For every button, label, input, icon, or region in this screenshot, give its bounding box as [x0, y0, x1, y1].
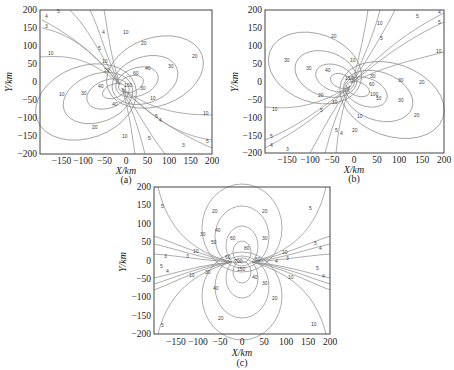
svg-text:200: 200 [323, 337, 338, 347]
svg-text:−150: −150 [131, 311, 151, 321]
contour-labels-c: 55 2020 3040 6080 3050 1010 6060 200150 … [160, 203, 325, 328]
svg-text:0: 0 [240, 337, 245, 347]
svg-text:4: 4 [322, 273, 325, 279]
svg-text:200: 200 [234, 258, 243, 264]
svg-text:30: 30 [200, 231, 206, 237]
svg-text:10: 10 [311, 321, 317, 327]
caption-c: (c) [236, 357, 247, 369]
svg-text:50: 50 [211, 239, 217, 245]
svg-text:−50: −50 [136, 274, 151, 284]
svg-text:60: 60 [255, 256, 261, 262]
svg-text:40: 40 [215, 227, 221, 233]
svg-text:5: 5 [309, 205, 312, 211]
svg-text:40: 40 [252, 274, 258, 280]
svg-text:4: 4 [166, 268, 169, 274]
svg-text:3: 3 [186, 253, 189, 259]
svg-text:30: 30 [205, 269, 211, 275]
svg-text:4: 4 [319, 245, 322, 251]
svg-text:−100: −100 [131, 292, 151, 302]
svg-text:5: 5 [161, 203, 164, 209]
svg-text:40: 40 [213, 285, 219, 291]
svg-text:100: 100 [137, 219, 152, 229]
contour-plot-c: 55 2020 3040 6080 3050 1010 6060 200150 … [0, 0, 454, 370]
svg-text:10: 10 [189, 272, 195, 278]
svg-text:20: 20 [212, 208, 218, 214]
svg-text:100: 100 [279, 337, 294, 347]
svg-text:50: 50 [259, 337, 269, 347]
svg-text:150: 150 [137, 200, 152, 210]
svg-text:−100: −100 [188, 337, 208, 347]
svg-text:−200: −200 [131, 329, 151, 339]
panel-c: 55 2020 3040 6080 3050 1010 6060 200150 … [0, 0, 454, 370]
svg-text:20: 20 [262, 208, 268, 214]
svg-text:4: 4 [275, 258, 278, 264]
svg-text:3: 3 [164, 253, 167, 259]
svg-text:60: 60 [225, 254, 231, 260]
svg-text:−150: −150 [166, 337, 186, 347]
svg-text:200: 200 [137, 182, 152, 192]
svg-text:10: 10 [288, 274, 294, 280]
svg-text:5: 5 [316, 265, 319, 271]
svg-text:150: 150 [301, 337, 316, 347]
y-axis-label-c: Y/km [117, 252, 128, 272]
svg-text:0: 0 [146, 256, 151, 266]
svg-text:150: 150 [237, 266, 246, 272]
svg-text:3: 3 [286, 255, 289, 261]
svg-text:80: 80 [244, 245, 250, 251]
svg-text:10: 10 [193, 248, 199, 254]
svg-text:−50: −50 [213, 337, 228, 347]
svg-text:50: 50 [142, 237, 152, 247]
svg-text:20: 20 [218, 315, 224, 321]
y-ticks-c: 200 150 100 50 0 −50 −100 −150 −200 [131, 182, 151, 339]
svg-text:60: 60 [230, 235, 236, 241]
svg-text:20: 20 [272, 295, 278, 301]
svg-text:5: 5 [161, 322, 164, 328]
svg-text:5: 5 [160, 263, 163, 269]
svg-text:30: 30 [262, 280, 268, 286]
svg-text:5: 5 [314, 240, 317, 246]
svg-text:30: 30 [262, 235, 268, 241]
